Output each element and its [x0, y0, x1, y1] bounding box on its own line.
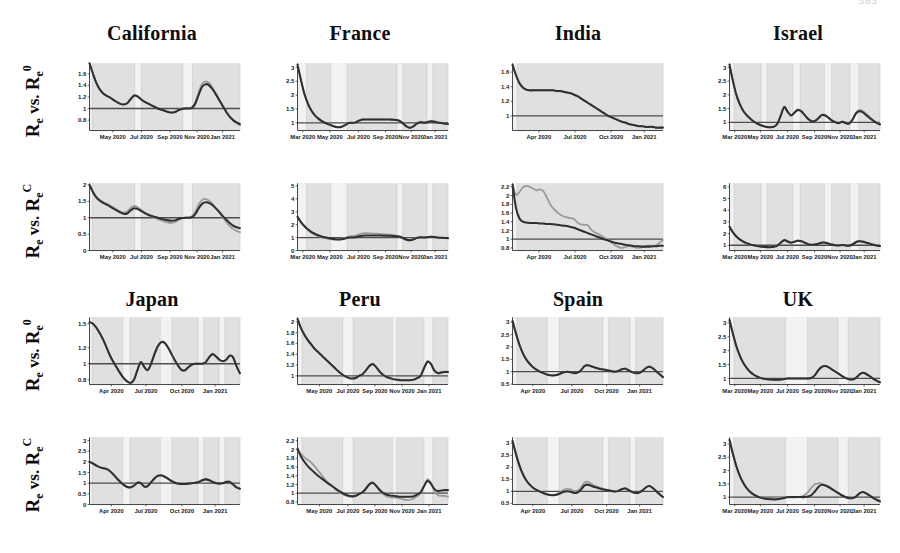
y-tick-label: 1.5 — [501, 356, 510, 362]
x-tick-label: Jan 2021 — [423, 254, 448, 260]
x-tick-label: Jan 2021 — [627, 508, 652, 514]
y-tick-label: 1 — [83, 106, 87, 112]
x-tick-label: May 2020 — [317, 134, 343, 140]
shaded-band — [808, 317, 838, 384]
chart-cell-japan-rc: 32.521.510.50Apr 2020Jul 2020Oct 2020Jan… — [60, 432, 250, 524]
shaded-band — [433, 63, 448, 130]
y-tick-label: 1.8 — [286, 455, 295, 461]
y-tick-label: 1.2 — [78, 94, 87, 100]
panel-title-peru: Peru — [240, 288, 480, 311]
y-tick-label: 2.5 — [501, 452, 510, 458]
x-tick-label: Apr 2020 — [99, 388, 124, 394]
shaded-band — [433, 183, 448, 250]
y-tick-label: 1.4 — [286, 473, 295, 479]
shaded-band — [848, 437, 880, 504]
y-tick-label: 1 — [506, 113, 510, 119]
shaded-band — [193, 183, 240, 250]
shaded-band — [225, 437, 240, 504]
x-tick-label: May 2020 — [306, 508, 332, 514]
x-tick-label: Sep 2020 — [802, 388, 827, 394]
chart-france-r0: 32.521.51Mar 2020May 2020Jul 2020Sep 202… — [268, 58, 458, 150]
row-label-text: Re vs. Re0 — [22, 319, 43, 391]
x-tick-label: Sep 2020 — [373, 134, 398, 140]
y-tick-label: 1 — [723, 494, 727, 500]
y-tick-label: 2 — [723, 348, 727, 354]
chart-peru-r0: 21.81.61.41.21May 2020Jul 2020Sep 2020No… — [268, 312, 458, 404]
y-tick-label: 1 — [291, 235, 295, 241]
chart-uk-rc: 32.521.51Mar 2020May 2020Jul 2020Sep 202… — [700, 432, 890, 524]
y-tick-label: 2 — [723, 231, 727, 237]
y-tick-label: 1 — [83, 480, 87, 486]
x-tick-label: Jul 2020 — [347, 134, 370, 140]
x-tick-label: Jul 2020 — [563, 134, 586, 140]
y-tick-label: 1.4 — [501, 219, 510, 225]
x-tick-label: Jan 2021 — [423, 134, 448, 140]
y-tick-label: 2 — [723, 468, 727, 474]
x-tick-label: Jan 2021 — [627, 388, 652, 394]
x-tick-label: Jan 2021 — [417, 508, 442, 514]
x-tick-label: Sep 2020 — [802, 254, 827, 260]
y-tick-label: 2.5 — [78, 448, 87, 454]
x-tick-label: Jul 2020 — [130, 134, 153, 140]
x-tick-label: Jul 2020 — [336, 388, 359, 394]
y-tick-label: 1.2 — [501, 98, 510, 104]
y-tick-label: 2.5 — [286, 78, 295, 84]
x-tick-label: Sep 2020 — [362, 508, 387, 514]
y-tick-label: 1.5 — [78, 198, 87, 204]
y-tick-label: 1.2 — [501, 228, 510, 234]
y-tick-label: 1.4 — [501, 84, 510, 90]
shaded-band — [734, 317, 785, 384]
chart-cell-california-rc: 21.510.50May 2020Jul 2020Sep 2020Nov 202… — [60, 178, 250, 270]
y-tick-label: 0.5 — [78, 491, 87, 497]
x-tick-label: Apr 2020 — [521, 388, 546, 394]
chart-israel-rc: 654321Mar 2020May 2020Jul 2020Sep 2020No… — [700, 178, 890, 270]
shaded-band — [609, 317, 630, 384]
shaded-band — [225, 317, 240, 384]
y-tick-label: 1.5 — [718, 362, 727, 368]
chart-cell-india-r0: 1.61.41.21Apr 2020Jul 2020Oct 2020Jan 20… — [483, 58, 673, 150]
row-label-text: Re vs. ReC — [22, 184, 43, 259]
shaded-band — [433, 317, 448, 384]
shaded-band — [302, 437, 343, 504]
x-tick-label: May 2020 — [306, 388, 332, 394]
shaded-band — [848, 317, 880, 384]
y-tick-label: 2.5 — [718, 78, 727, 84]
x-tick-label: Sep 2020 — [157, 254, 182, 260]
shaded-band — [93, 63, 135, 130]
x-tick-label: Jul 2020 — [776, 134, 799, 140]
chart-cell-japan-r0: 1.51.210.8Apr 2020Jul 2020Oct 2020Jan 20… — [60, 312, 250, 404]
y-tick-label: 3 — [506, 319, 510, 325]
x-tick-label: Oct 2020 — [599, 134, 623, 140]
y-tick-label: 1.8 — [501, 201, 510, 207]
panel-title-france: France — [240, 22, 480, 45]
row-label-re-vs-rc-bottom: Re vs. ReC — [21, 415, 47, 535]
chart-cell-spain-r0: 32.521.510.5Apr 2020Jul 2020Oct 2020Jan … — [483, 312, 673, 404]
x-tick-label: Jan 2021 — [852, 508, 877, 514]
x-tick-label: Jan 2021 — [203, 508, 228, 514]
y-tick-label: 0.8 — [286, 499, 295, 505]
y-tick-label: 2.2 — [501, 184, 510, 190]
panel-titles-bottom: Japan Peru Spain UK — [0, 285, 900, 313]
shaded-band — [302, 317, 343, 384]
panel-title-spain: Spain — [458, 288, 698, 311]
shaded-band — [347, 183, 397, 250]
x-tick-label: Jul 2020 — [134, 508, 157, 514]
chart-cell-france-rc: 543210Mar 2020May 2020Jul 2020Sep 2020No… — [268, 178, 458, 270]
y-tick-label: 1 — [83, 361, 87, 367]
x-tick-label: Nov 2020 — [389, 508, 415, 514]
y-tick-label: 4 — [723, 207, 727, 213]
x-tick-label: Sep 2020 — [362, 388, 387, 394]
y-tick-label: 0.5 — [78, 231, 87, 237]
chart-cell-israel-rc: 654321Mar 2020May 2020Jul 2020Sep 2020No… — [700, 178, 890, 270]
x-tick-label: Jul 2020 — [776, 388, 799, 394]
panel-titles-top: California France India Israel — [0, 0, 900, 28]
x-tick-label: Mar 2020 — [290, 134, 315, 140]
shaded-band — [609, 437, 630, 504]
shaded-band — [204, 317, 219, 384]
chart-japan-rc: 32.521.510.50Apr 2020Jul 2020Oct 2020Jan… — [60, 432, 250, 524]
x-tick-label: May 2020 — [747, 388, 773, 394]
y-tick-label: 2 — [83, 459, 87, 465]
y-tick-label: 1.2 — [78, 345, 87, 351]
y-tick-label: 2.2 — [286, 438, 295, 444]
chart-cell-spain-rc: 32.521.510.5Apr 2020Jul 2020Oct 2020Jan … — [483, 432, 673, 524]
